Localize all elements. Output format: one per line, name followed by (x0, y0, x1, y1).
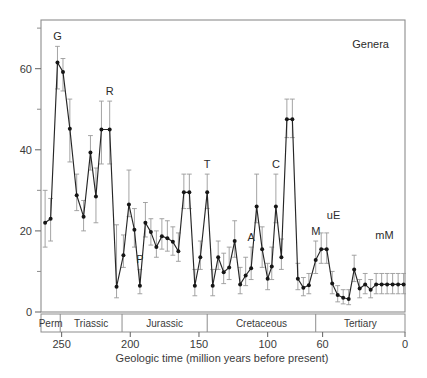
data-point (187, 190, 191, 194)
series-note-genera: Genera (352, 38, 390, 50)
data-point (301, 286, 305, 290)
data-point (127, 203, 131, 207)
data-point (99, 128, 103, 132)
data-point (336, 293, 340, 297)
data-point (260, 247, 264, 251)
data-point (75, 193, 79, 197)
data-point (402, 282, 406, 286)
peak-annotation-R: R (106, 85, 114, 97)
data-point (285, 117, 289, 121)
period-label-tertiary: Tertiary (344, 318, 377, 329)
data-point (94, 194, 98, 198)
figure-root: (b) 0204060 GRPTACMuEmM PermTriassicJura… (0, 0, 427, 378)
data-point (352, 267, 356, 271)
data-point (347, 297, 351, 301)
data-point (82, 215, 86, 219)
peak-annotation-uE: uE (327, 209, 340, 221)
data-point (171, 240, 175, 244)
data-point (216, 255, 220, 259)
data-point (279, 255, 283, 259)
data-point (227, 265, 231, 269)
x-tick-label: 200 (121, 338, 139, 350)
data-point (132, 228, 136, 232)
y-tick-label: 40 (20, 144, 32, 156)
data-point (290, 117, 294, 121)
data-point (115, 285, 119, 289)
data-point (165, 236, 169, 240)
data-point (88, 151, 92, 155)
data-point (61, 70, 65, 74)
data-point (369, 288, 373, 292)
data-point (325, 247, 329, 251)
period-label-perm: Perm (39, 318, 63, 329)
x-axis-title: Geologic time (million years before pres… (116, 352, 329, 364)
data-point (43, 221, 47, 225)
data-point (341, 296, 345, 300)
y-tick-label: 0 (26, 306, 32, 318)
y-tick-label: 20 (20, 225, 32, 237)
data-point (143, 221, 147, 225)
peak-annotation-A: A (247, 231, 255, 243)
data-point (374, 282, 378, 286)
data-point (49, 217, 53, 221)
data-point (222, 270, 226, 274)
data-point (307, 283, 311, 287)
data-point (358, 286, 362, 290)
data-point (176, 249, 180, 253)
data-point (296, 277, 300, 281)
data-point (270, 265, 274, 269)
data-point (385, 282, 389, 286)
data-point (108, 128, 112, 132)
data-point (233, 239, 237, 243)
data-point (160, 234, 164, 238)
peak-annotation-M: M (311, 225, 320, 237)
data-point (68, 127, 72, 131)
data-point (314, 258, 318, 262)
data-point (138, 284, 142, 288)
peak-annotation-C: C (272, 158, 280, 170)
data-point (274, 205, 278, 209)
period-label-jurassic: Jurassic (146, 318, 183, 329)
x-tick-label: 250 (52, 338, 70, 350)
genera-diversity-line-chart: 0204060 GRPTACMuEmM PermTriassicJurassic… (0, 0, 427, 378)
data-point (380, 282, 384, 286)
data-point (55, 61, 59, 65)
data-point (330, 282, 334, 286)
data-point (198, 255, 202, 259)
y-tick-label: 60 (20, 63, 32, 75)
period-label-triassic: Triassic (74, 318, 108, 329)
peak-annotation-P: P (136, 253, 143, 265)
data-point (255, 205, 259, 209)
data-point (396, 282, 400, 286)
peak-annotation-mM: mM (375, 229, 393, 241)
data-point (149, 230, 153, 234)
x-tick-label: 0 (402, 338, 408, 350)
data-point (244, 274, 248, 278)
data-point (205, 190, 209, 194)
data-point (211, 284, 215, 288)
data-point (238, 282, 242, 286)
x-tick-label: 150 (190, 338, 208, 350)
data-point (391, 282, 395, 286)
data-point (249, 266, 253, 270)
data-point (121, 253, 125, 257)
peak-annotation-G: G (53, 30, 62, 42)
data-point (319, 247, 323, 251)
data-point (363, 282, 367, 286)
data-point (193, 284, 197, 288)
x-tick-label: 60 (316, 338, 328, 350)
period-label-cretaceous: Cretaceous (236, 318, 287, 329)
data-point (182, 190, 186, 194)
peak-annotation-T: T (204, 158, 211, 170)
data-point (266, 277, 270, 281)
x-tick-label: 100 (258, 338, 276, 350)
data-point (154, 245, 158, 249)
